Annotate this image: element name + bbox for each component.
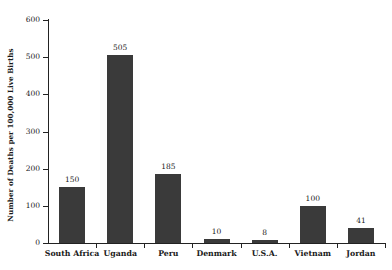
bar-value-label: 505	[95, 44, 145, 52]
x-axis-tick	[337, 243, 338, 248]
bar	[300, 206, 326, 243]
bar-value-label: 185	[143, 163, 193, 171]
bar	[348, 228, 374, 243]
y-axis-tick-label: 600	[10, 16, 40, 24]
bar-chart: Number of Deaths per 100,000 Live Births…	[0, 0, 392, 270]
y-axis-tick	[43, 94, 48, 95]
bar-value-label: 8	[240, 229, 290, 237]
x-axis-category-label: Jordan	[321, 250, 392, 258]
x-axis-tick	[144, 243, 145, 248]
x-axis-tick	[192, 243, 193, 248]
bar	[252, 240, 278, 243]
bar-value-label: 10	[192, 228, 242, 236]
y-axis-tick-label: 0	[10, 239, 40, 247]
y-axis-tick-label: 200	[10, 165, 40, 173]
y-axis-tick	[43, 206, 48, 207]
bar	[204, 239, 230, 243]
x-axis-tick	[385, 243, 386, 248]
bar-value-label: 150	[47, 176, 97, 184]
x-axis-line	[48, 243, 385, 244]
y-axis-tick	[43, 169, 48, 170]
y-axis-tick-label: 500	[10, 53, 40, 61]
bar-value-label: 41	[336, 217, 386, 225]
bar	[107, 55, 133, 243]
bar	[59, 187, 85, 243]
bar	[155, 174, 181, 243]
y-axis-tick-label: 400	[10, 91, 40, 99]
y-axis-tick-label: 100	[10, 202, 40, 210]
plot-area: 010020030040050060015050518510810041	[48, 20, 385, 243]
y-axis-tick-label: 300	[10, 128, 40, 136]
y-axis-tick	[43, 20, 48, 21]
x-axis-tick	[241, 243, 242, 248]
x-axis-tick	[289, 243, 290, 248]
bar-value-label: 100	[288, 195, 338, 203]
y-axis-tick	[43, 57, 48, 58]
y-axis-tick	[43, 243, 48, 244]
x-axis-tick	[96, 243, 97, 248]
y-axis-tick	[43, 132, 48, 133]
